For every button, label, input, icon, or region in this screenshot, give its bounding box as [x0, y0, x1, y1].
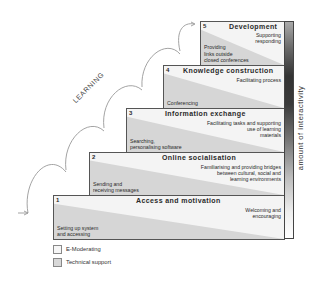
technical-support-text: Searching, personalising software — [130, 138, 182, 150]
e-moderating-text: Familiarising and providing bridges betw… — [201, 164, 281, 183]
step-number: 1 — [56, 197, 59, 203]
legend-swatch-e-moderating — [53, 245, 62, 254]
interactivity-gradient-bar — [284, 21, 294, 239]
e-moderating-text: Welcoming and encouraging — [245, 207, 281, 219]
step-number: 5 — [203, 23, 206, 29]
step-title: Knowledge construction — [183, 67, 273, 74]
step-3-information-exchange: 3 Information exchange Facilitating task… — [126, 108, 285, 153]
step-title: Access and motivation — [136, 197, 221, 204]
step-title: Online socialisation — [162, 154, 236, 161]
step-number: 4 — [166, 67, 169, 73]
technical-support-text: Sending and receiving messages — [93, 181, 139, 193]
step-title: Development — [229, 23, 277, 30]
legend-swatch-technical-support — [53, 258, 62, 267]
technical-support-text: Providing links outside closed conferenc… — [204, 44, 249, 63]
step-number: 3 — [129, 110, 132, 116]
technical-support-text: Conferencing — [167, 100, 198, 106]
step-1-access-motivation: 1 Access and motivation Welcoming and en… — [53, 195, 285, 240]
e-moderating-text: Supporting responding — [255, 32, 281, 44]
step-2-online-socialisation: 2 Online socialisation Familiarising and… — [89, 152, 285, 196]
step-number: 2 — [92, 154, 95, 160]
step-5-development: 5 Development Supporting responding Prov… — [200, 21, 285, 66]
step-4-knowledge-construction: 4 Knowledge construction Facilitating pr… — [163, 65, 285, 109]
interactivity-label: amount of interactivity — [296, 86, 305, 170]
e-moderating-text: Facilitating tasks and supporting use of… — [207, 120, 281, 139]
step-title: Information exchange — [165, 110, 246, 117]
legend-label-technical-support: Technical support — [66, 259, 111, 265]
e-moderating-text: Facilitating process — [237, 77, 281, 83]
technical-support-text: Setting up system and accessing — [57, 225, 98, 237]
legend-label-e-moderating: E-Moderating — [66, 246, 101, 252]
